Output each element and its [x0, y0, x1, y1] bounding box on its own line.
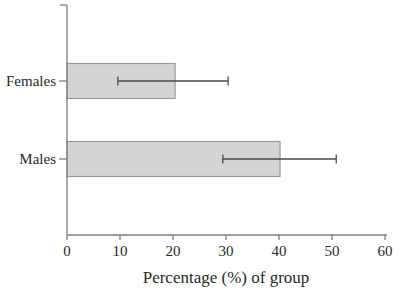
bar-chart: 0102030405060FemalesMalesPercentage (%) … — [0, 0, 400, 295]
x-axis-tick-label: 0 — [63, 243, 71, 259]
x-axis-tick-label: 50 — [325, 243, 340, 259]
category-label-females: Females — [6, 73, 56, 89]
x-axis-tick-label: 20 — [166, 243, 181, 259]
x-axis-tick-label: 40 — [272, 243, 287, 259]
x-axis-tick-label: 60 — [378, 243, 393, 259]
x-axis-tick-label: 10 — [113, 243, 128, 259]
chart-canvas: 0102030405060FemalesMalesPercentage (%) … — [0, 0, 400, 295]
x-axis-tick-label: 30 — [219, 243, 234, 259]
x-axis-title: Percentage (%) of group — [143, 268, 310, 287]
category-label-males: Males — [19, 151, 56, 167]
